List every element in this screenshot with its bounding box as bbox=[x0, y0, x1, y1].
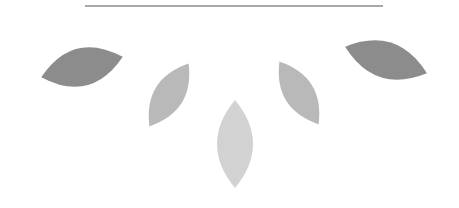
leaf-mid-left-icon bbox=[137, 56, 202, 135]
leaf-far-left-icon bbox=[37, 38, 128, 95]
leaf-center-icon bbox=[217, 100, 253, 188]
leaf-far-right-icon bbox=[340, 30, 433, 91]
leaf-mid-right-icon bbox=[267, 54, 332, 133]
leaf-fan bbox=[0, 0, 459, 208]
decorative-graphic bbox=[0, 0, 459, 208]
